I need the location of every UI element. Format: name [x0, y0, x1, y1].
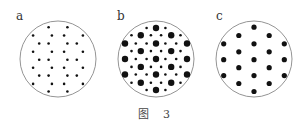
panel-a-dot	[51, 34, 54, 37]
panel-b: b	[117, 9, 194, 97]
panel-a-dot	[63, 83, 66, 86]
panel-a-dot	[47, 74, 50, 77]
panel-b-dot	[153, 56, 159, 62]
caption-number: 3	[163, 108, 170, 121]
panel-a-dot	[38, 42, 41, 45]
panel-a-dot	[47, 58, 50, 61]
panel-b-dot	[153, 71, 159, 77]
panel-b-dot	[150, 50, 153, 53]
panel-c-dot	[236, 49, 241, 54]
figure-3-diagram: a b c 图 3	[0, 0, 306, 128]
panel-label-c: c	[216, 9, 223, 23]
panel-a-dot	[66, 42, 69, 45]
panel-b-dot	[130, 50, 133, 53]
panel-c-dot	[251, 57, 256, 62]
panel-a-dot	[76, 74, 79, 77]
panel-c-dot	[221, 73, 226, 78]
panel-a-dots	[32, 26, 84, 93]
panel-a-dot	[47, 26, 50, 29]
panel-c-dot	[267, 49, 272, 54]
panel-c-dot	[236, 81, 241, 86]
panel-a-dot	[32, 51, 35, 54]
caption-prefix: 图	[138, 108, 149, 121]
panel-a: a	[16, 9, 96, 97]
panel-a-dot	[76, 58, 79, 61]
panel-a-dot	[63, 66, 66, 69]
panel-c-dot	[251, 41, 256, 46]
panel-b-dot	[164, 58, 167, 61]
panel-b-dot	[168, 64, 174, 70]
panel-a-dot	[32, 83, 35, 86]
panel-b-dot	[130, 66, 133, 69]
panel-b-dot	[160, 82, 163, 85]
panel-b-dot	[164, 42, 167, 45]
panel-b-dot	[145, 27, 148, 30]
panel-b-dot	[145, 42, 148, 45]
panel-b-dot	[168, 48, 174, 54]
panel-c-dot	[267, 65, 272, 70]
panel-c-dot	[221, 41, 226, 46]
panel-b-dot	[179, 50, 182, 53]
panel-b-dot	[145, 73, 148, 76]
panel-c-dot	[282, 41, 287, 46]
panel-c-dot	[236, 33, 241, 38]
panel-b-dot	[135, 73, 138, 76]
panel-b-dot	[168, 80, 174, 86]
panel-c: c	[216, 9, 292, 97]
panel-c-dot	[251, 25, 256, 30]
panel-b-dot	[160, 66, 163, 69]
panel-b-dot	[153, 87, 159, 93]
panel-a-dot	[66, 74, 69, 77]
panel-label-b: b	[117, 9, 125, 23]
panel-a-dot	[47, 42, 50, 45]
panel-c-dot	[251, 89, 256, 94]
panel-b-dot	[122, 71, 128, 77]
panel-a-dot	[82, 34, 85, 37]
panel-b-dot	[179, 66, 182, 69]
panel-b-dot	[150, 66, 153, 69]
panel-a-dot	[32, 66, 35, 69]
panel-b-dot	[135, 42, 138, 45]
panel-a-dot	[51, 83, 54, 86]
panel-a-dot	[66, 26, 69, 29]
panel-b-dot	[130, 34, 133, 37]
panel-b-dot	[135, 58, 138, 61]
panel-b-dot	[145, 58, 148, 61]
panel-c-dot	[221, 57, 226, 62]
panel-a-boundary-circle	[20, 21, 96, 97]
panel-b-dot	[130, 82, 133, 85]
panel-a-dot	[82, 51, 85, 54]
panel-b-dot	[184, 56, 190, 62]
panel-b-dot	[153, 40, 159, 46]
panel-label-a: a	[16, 9, 23, 23]
panel-b-dot	[164, 27, 167, 30]
panel-b-dot	[179, 34, 182, 37]
panel-b-dot	[160, 34, 163, 37]
panel-a-dot	[66, 90, 69, 93]
panel-b-dot	[184, 71, 190, 77]
panel-a-dot	[51, 51, 54, 54]
panel-b-dot	[153, 25, 159, 31]
panel-a-dot	[76, 42, 79, 45]
panel-b-dot	[122, 56, 128, 62]
panel-a-dot	[63, 51, 66, 54]
panel-a-dot	[32, 34, 35, 37]
panel-c-dot	[236, 65, 241, 70]
panel-b-dot	[160, 50, 163, 53]
panel-c-dots	[221, 25, 287, 95]
panel-b-dot	[175, 73, 178, 76]
panel-c-dot	[282, 57, 287, 62]
panel-b-dot	[145, 89, 148, 92]
panel-b-dot	[138, 64, 144, 70]
panel-a-dot	[82, 66, 85, 69]
panel-b-dot	[175, 58, 178, 61]
panel-b-dot	[122, 40, 128, 46]
panel-b-dot	[168, 32, 174, 38]
panel-c-dot	[251, 73, 256, 78]
panel-b-dot	[164, 89, 167, 92]
panel-b-dot	[138, 80, 144, 86]
panel-b-dot	[164, 73, 167, 76]
panel-b-dot	[138, 32, 144, 38]
panel-b-dot	[184, 40, 190, 46]
panel-a-dot	[66, 58, 69, 61]
